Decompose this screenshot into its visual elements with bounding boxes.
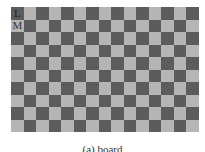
board-cell	[61, 20, 74, 33]
board-cell	[136, 107, 149, 120]
board-cell	[99, 70, 112, 83]
board-cell	[74, 20, 87, 33]
board-cell	[111, 120, 124, 133]
board-cell	[61, 57, 74, 70]
board-cell	[61, 7, 74, 20]
board-cell	[24, 95, 37, 108]
board-cell	[36, 95, 49, 108]
board-cell	[186, 95, 199, 108]
board-cell	[111, 70, 124, 83]
board-cell	[24, 45, 37, 58]
board-cell	[49, 95, 62, 108]
board-cell	[61, 32, 74, 45]
board-cell	[186, 70, 199, 83]
board-cell	[136, 57, 149, 70]
board-cell	[61, 107, 74, 120]
board-cell	[111, 107, 124, 120]
board-cell	[49, 20, 62, 33]
board-cell	[149, 95, 162, 108]
board-cell	[24, 7, 37, 20]
board-cell	[186, 20, 199, 33]
board-cell	[86, 57, 99, 70]
board-cell	[49, 45, 62, 58]
board-cell	[99, 32, 112, 45]
board-cell	[161, 95, 174, 108]
board-cell	[174, 82, 187, 95]
board-cell	[124, 107, 137, 120]
board-cell	[49, 7, 62, 20]
board-cell	[11, 32, 24, 45]
board-cell	[174, 107, 187, 120]
board-cell	[86, 82, 99, 95]
board-cell	[86, 20, 99, 33]
board-cell	[124, 7, 137, 20]
board-cell	[49, 57, 62, 70]
board-cell	[61, 120, 74, 133]
board-cell	[86, 7, 99, 20]
board-cell	[186, 32, 199, 45]
board-cell	[74, 32, 87, 45]
board-cell	[124, 70, 137, 83]
board-cell	[11, 82, 24, 95]
board-cell	[124, 95, 137, 108]
board-cell	[74, 70, 87, 83]
cell-label: L	[14, 8, 21, 19]
board-cell	[99, 120, 112, 133]
board-cell	[136, 120, 149, 133]
checkerboard-grid: LM	[11, 7, 199, 132]
board-cell	[86, 32, 99, 45]
board-cell	[174, 57, 187, 70]
board-cell	[161, 7, 174, 20]
board-cell	[24, 120, 37, 133]
board-cell	[49, 107, 62, 120]
board-cell	[136, 45, 149, 58]
board-cell	[99, 7, 112, 20]
board-cell	[11, 57, 24, 70]
board-cell	[149, 57, 162, 70]
board-cell	[124, 20, 137, 33]
board-cell	[61, 95, 74, 108]
board-cell	[161, 70, 174, 83]
board-cell	[136, 7, 149, 20]
board-cell	[24, 107, 37, 120]
board-cell	[186, 7, 199, 20]
board-cell	[111, 57, 124, 70]
board-cell	[149, 20, 162, 33]
board-cell	[174, 7, 187, 20]
board-cell	[174, 20, 187, 33]
board-cell	[11, 120, 24, 133]
board-cell	[49, 70, 62, 83]
board-cell	[124, 57, 137, 70]
board-cell	[36, 70, 49, 83]
board-cell	[49, 82, 62, 95]
board-cell: M	[11, 20, 24, 33]
board-cell	[49, 32, 62, 45]
board-cell	[161, 32, 174, 45]
board-cell	[74, 82, 87, 95]
board-cell	[161, 45, 174, 58]
board-cell	[186, 82, 199, 95]
board-cell	[111, 20, 124, 33]
board-cell	[149, 7, 162, 20]
board-cell	[186, 57, 199, 70]
board-cell	[111, 32, 124, 45]
board-cell	[86, 70, 99, 83]
board-cell	[74, 107, 87, 120]
board-cell	[61, 45, 74, 58]
board-cell	[74, 7, 87, 20]
board-cell	[99, 20, 112, 33]
board-cell	[149, 45, 162, 58]
board-cell	[99, 107, 112, 120]
board-cell	[24, 70, 37, 83]
board-cell	[11, 95, 24, 108]
board-cell	[99, 95, 112, 108]
board-cell	[11, 45, 24, 58]
board-cell	[174, 70, 187, 83]
board-cell	[99, 45, 112, 58]
board-cell	[61, 70, 74, 83]
board-cell	[136, 32, 149, 45]
board-cell	[111, 45, 124, 58]
board-cell	[161, 57, 174, 70]
board-cell	[136, 82, 149, 95]
board-cell	[161, 20, 174, 33]
